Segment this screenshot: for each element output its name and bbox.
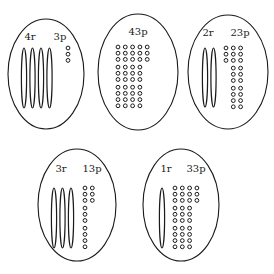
bead xyxy=(231,105,235,109)
group-label: 3r xyxy=(55,163,66,174)
bead xyxy=(83,186,87,190)
rod xyxy=(30,48,35,108)
bead xyxy=(131,65,135,69)
bead xyxy=(188,206,192,210)
bead xyxy=(173,239,177,243)
bead xyxy=(116,98,120,102)
bead xyxy=(231,93,235,97)
bead xyxy=(224,46,228,50)
group-1r-33p: 1r33p xyxy=(143,149,219,261)
bead xyxy=(123,98,127,102)
bead xyxy=(231,79,235,83)
rod xyxy=(38,48,43,108)
group-4r-3p: 4r3p xyxy=(8,19,84,129)
bead xyxy=(131,85,135,89)
bead xyxy=(224,59,228,63)
bead xyxy=(116,104,120,108)
group-outline xyxy=(8,19,84,129)
bead xyxy=(239,66,243,70)
bead xyxy=(131,51,135,55)
bead xyxy=(123,71,127,75)
bead xyxy=(188,192,192,196)
group-label: 4r xyxy=(24,31,35,42)
bead xyxy=(180,226,184,230)
bead xyxy=(195,192,199,196)
bead xyxy=(231,99,235,103)
bead xyxy=(123,51,127,55)
bead xyxy=(188,245,192,249)
bead xyxy=(239,72,243,76)
bead xyxy=(239,46,243,50)
bead xyxy=(145,45,149,49)
bead xyxy=(90,199,94,203)
bead xyxy=(145,58,149,62)
bead xyxy=(239,93,243,97)
bead xyxy=(138,78,142,82)
bead xyxy=(188,219,192,223)
group-43p: 43p xyxy=(98,14,178,130)
bead xyxy=(239,52,243,56)
bead xyxy=(83,233,87,237)
bead xyxy=(173,233,177,237)
bead xyxy=(90,186,94,190)
rod xyxy=(47,48,52,108)
bead xyxy=(131,45,135,49)
bead xyxy=(188,233,192,237)
bead xyxy=(123,58,127,62)
bead xyxy=(145,51,149,55)
bead xyxy=(231,72,235,76)
group-outline xyxy=(188,15,268,129)
bead xyxy=(131,58,135,62)
bead xyxy=(231,86,235,90)
bead xyxy=(123,78,127,82)
bead xyxy=(231,59,235,63)
bead xyxy=(123,85,127,89)
bead xyxy=(188,199,192,203)
rod xyxy=(202,48,207,107)
bead xyxy=(180,239,184,243)
bead xyxy=(188,226,192,230)
rod xyxy=(211,48,216,107)
bead xyxy=(239,105,243,109)
bead xyxy=(173,212,177,216)
rod xyxy=(159,188,164,248)
bead xyxy=(138,58,142,62)
bead xyxy=(239,59,243,63)
bead xyxy=(231,66,235,70)
bead xyxy=(173,186,177,190)
bead xyxy=(180,192,184,196)
group-3r-13p: 3r13p xyxy=(38,149,116,261)
bead xyxy=(173,219,177,223)
bead xyxy=(123,65,127,69)
bead xyxy=(131,92,135,96)
bead xyxy=(224,52,228,56)
bead xyxy=(131,78,135,82)
group-outline xyxy=(143,149,219,261)
group-label: 43p xyxy=(128,26,147,37)
bead xyxy=(131,98,135,102)
bead xyxy=(83,219,87,223)
bead xyxy=(116,78,120,82)
bead xyxy=(116,45,120,49)
bead xyxy=(83,206,87,210)
bead xyxy=(138,98,142,102)
bead xyxy=(131,104,135,108)
bead xyxy=(138,65,142,69)
bead xyxy=(83,226,87,230)
bead xyxy=(188,212,192,216)
bead xyxy=(83,199,87,203)
bead xyxy=(180,219,184,223)
bead xyxy=(83,245,87,249)
bead xyxy=(180,233,184,237)
rod xyxy=(21,48,26,108)
bead xyxy=(83,239,87,243)
bead xyxy=(239,99,243,103)
group-label: 33p xyxy=(186,163,205,174)
bead xyxy=(138,45,142,49)
bead xyxy=(231,46,235,50)
rod xyxy=(51,188,56,248)
bead xyxy=(180,206,184,210)
group-label: 1r xyxy=(160,163,171,174)
bead xyxy=(180,186,184,190)
bead xyxy=(173,199,177,203)
